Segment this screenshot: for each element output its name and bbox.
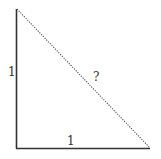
horizontal-leg-label: 1 xyxy=(67,134,75,148)
hypotenuse xyxy=(17,9,150,148)
vertical-leg-label: 1 xyxy=(8,65,16,79)
hypotenuse-label: ? xyxy=(93,70,99,84)
triangle-diagram: 1 1 ? xyxy=(0,0,161,159)
